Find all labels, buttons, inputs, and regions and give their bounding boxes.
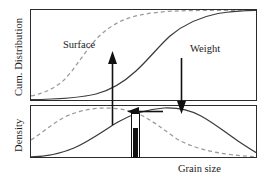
curve-weight-density [31, 108, 257, 157]
curve-label-weight: Weight [190, 43, 220, 54]
up-arrow-head [108, 51, 117, 64]
curve-label-surface: Surface [63, 39, 95, 50]
curves-overlay [0, 0, 268, 186]
curve-weight-cumulative [31, 10, 257, 99]
gauge-marker-fill [133, 128, 138, 157]
x-axis-label-grain-size: Grain size [178, 163, 221, 174]
curve-surface-cumulative [31, 10, 257, 96]
y-axis-label-cumulative-distribution: Cum. Distribution [13, 18, 24, 96]
figure-container: Cum. Distribution Density Grain size Sur… [0, 0, 268, 186]
down-arrow-head [177, 101, 186, 114]
curve-surface-density [31, 108, 257, 157]
y-axis-label-density: Density [13, 119, 24, 152]
